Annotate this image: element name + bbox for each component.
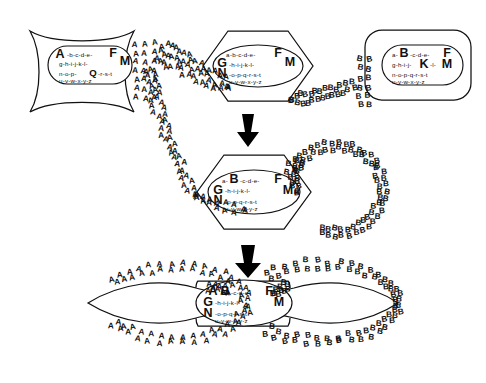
trail-b-loop-letters: B [376,326,384,336]
letter-B-cap: B [229,172,238,186]
diagram-canvas: A -b-c-d-e- F M g-h-i-j-k-l- n-o-p- Q -r… [0,0,486,383]
row2: g-h-i-j- [392,61,411,68]
trail-a-loop-letters: A [144,337,151,346]
trail-b-loop-letters: B [281,262,288,271]
trail-b-letters: B [366,100,372,109]
trail-b-loop-letters: B [369,323,376,333]
row2: -h-i-j-k-l- [215,299,240,306]
row3-post: -r-s-t [98,70,112,77]
trail-b-loop-letters: B [389,316,395,325]
trail-a-loop-letters: A [203,336,209,345]
trail-b-loop-letters: B [314,255,321,265]
trail-b-loop-letters: B [314,264,321,273]
trail-a-letters: A [141,49,147,58]
trail-a-loop-letters: A [191,259,198,269]
letter-M-cap: M [285,55,295,69]
letter-K-cap: K [419,57,428,71]
trail-a-letters: A [167,62,174,72]
trail-b-letters: B [358,100,365,110]
trail-a-loop-letters: A [156,339,163,348]
trail-b-loop-letters: B [292,259,299,268]
trail-b-loop-letters: B [262,330,269,340]
trail-b-loop-letters: B [269,322,276,332]
arrow-step-1 [237,114,259,147]
trail-b-letters: B [357,62,364,72]
trail-b-loop-letters: B [270,289,277,298]
letter-F-cap: F [274,172,282,186]
trail-a-loop-letters: A [168,260,175,270]
letter-F-cap: F [274,46,282,60]
letter-B-cap: B [399,46,408,60]
trail-b-loop-letters: B [303,339,311,349]
row3-pre: n-o-p- [59,70,77,77]
trail-b-loop-letters: B [292,336,298,345]
trail-b-loop-letters: B [270,263,276,272]
trail-a-loop-letters: A [222,330,229,340]
trail-b-loop-letters: B [324,259,331,269]
trail-b-letters: B [346,231,354,241]
row2-post: -l- [430,61,436,68]
trail-b-loop-letters: B [304,264,311,274]
trail-a-letters: A [132,40,138,49]
trail-a-loop-letters: A [115,317,122,327]
trail-b-loop-letters: B [326,338,333,348]
trail-b-loop-letters: B [358,335,364,344]
trail-a-loop-letters: A [108,321,114,330]
trail-a-letters: A [179,71,185,80]
cell-top-left [30,31,134,112]
trail-a-letters: A [242,206,249,216]
trail-a-letters: A [134,83,141,93]
trail-a-loop-letters: A [235,318,242,328]
trail-b-letters: B [294,188,300,197]
trail-b-letters: B [288,95,295,105]
diagram-svg: A -b-c-d-e- F M g-h-i-j-k-l- n-o-p- Q -r… [0,0,486,383]
trail-a-letters: A [184,186,192,196]
trail-a-loop-letters: A [191,338,197,347]
trail-b-loop-letters: B [368,332,375,342]
trail-a-loop-letters: A [180,258,187,268]
trail-a-loop-letters: A [229,324,236,334]
trail-b-letters: B [322,84,328,93]
trail-a-loop-letters: A [156,260,162,269]
trail-b-letters: B [332,232,340,242]
letter-F-cap: F [109,46,117,60]
arrow-step-2 [235,245,261,278]
trail-b-letters: B [319,228,325,237]
trail-a-letters: A [206,198,213,208]
row4: u-v-w-x-y-z [229,78,262,85]
trail-b-loop-letters: B [315,339,321,348]
row2: g-h-i-j-k-l- [59,60,88,67]
trail-a-loop-letters: A [145,260,152,269]
trail-a-letters: A [210,84,216,93]
trail-b-letters: B [325,230,331,239]
row1-mid: -c-d-e- [240,177,260,184]
trail-b-loop-letters: B [302,255,308,264]
trail-a-loop-letters: A [134,334,142,344]
trail-b-loop-letters: B [335,335,342,345]
row4: u-v-w-x-y-z [392,78,425,85]
letter-M-cap: M [120,54,130,68]
trail-b-letters: B [338,231,344,240]
trail-b-letters: B [349,140,356,150]
row2: -h-i-j-k-l- [225,187,250,194]
row4: u-v-w-x-y-z [59,77,92,84]
trail-a-letters: A [132,66,138,75]
row1-mid: -b-c-d-e- [67,51,93,58]
trail-a-letters: A [141,39,148,48]
trail-a-loop-letters: A [211,329,219,339]
row1-mid: -b-c-d-e- [230,51,256,58]
row3: -o-p-q-r-s-t [229,71,261,78]
row3: n-o-p-q-r-s-t [392,71,428,78]
trail-a-loop-letters: A [108,275,116,285]
trail-b-letters: B [315,94,322,104]
trail-b-letters: B [342,78,349,88]
trail-b-loop-letters: B [338,257,346,267]
trail-a-letters: A [132,56,140,66]
row2: -h-i-j-k-l- [229,61,254,68]
row1-pre: a- [392,51,398,58]
letter-M-cap: M [442,57,452,71]
trail-a-loop-letters: A [116,270,123,280]
trail-b-letters: B [353,228,359,237]
row1-pre: a- [222,177,228,184]
trail-b-letters: B [366,222,372,231]
